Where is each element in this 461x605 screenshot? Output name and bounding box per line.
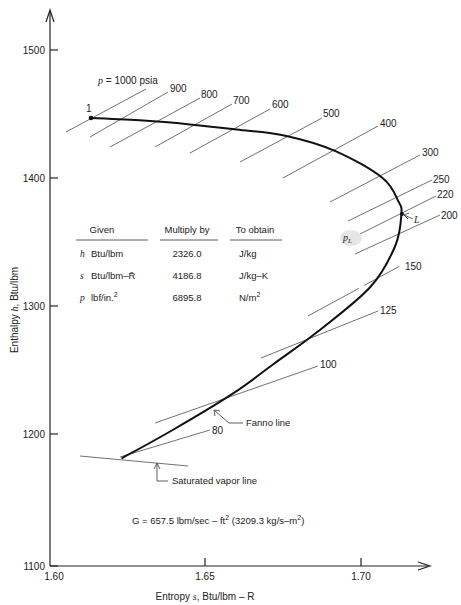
isobar-line	[155, 366, 318, 423]
svg-text:Btu/lbm: Btu/lbm	[91, 248, 123, 259]
isobar-label: 300	[422, 147, 439, 158]
isobar-label: p = 1000 psia	[97, 75, 158, 86]
svg-text:lbf/in.2: lbf/in.2	[91, 291, 118, 303]
svg-text:Btu/lbm–R̄: Btu/lbm–R̄	[91, 270, 135, 281]
isobar-label: 500	[323, 108, 340, 119]
svg-text:2326.0: 2326.0	[172, 248, 201, 259]
isobar-line	[110, 98, 200, 147]
axes	[46, 10, 430, 570]
table-header-given: Given	[90, 224, 115, 235]
svg-text:J/kg–K: J/kg–K	[239, 270, 269, 281]
y-axis-label: Enthalpy h, Btu/lbm	[9, 267, 20, 353]
svg-text:J/kg: J/kg	[239, 248, 256, 259]
state-point-1-label: 1	[86, 103, 92, 114]
isobar-label: 800	[201, 89, 218, 100]
x-tick-label: 1.65	[195, 571, 215, 582]
isobar-label: 200	[441, 210, 458, 221]
isobar-label: 900	[170, 83, 187, 94]
isobar-label: 80	[212, 425, 224, 436]
isobar-label: 220	[437, 189, 454, 200]
isobar-label: 100	[320, 359, 337, 370]
svg-text:N/m2: N/m2	[239, 291, 260, 303]
table-header-obtain: To obtain	[236, 224, 275, 235]
x-tick-label: 1.70	[351, 571, 371, 582]
table-row: s Btu/lbm–R̄ 4186.8 J/kg–K	[80, 270, 269, 281]
point-L-label: L	[413, 214, 420, 225]
saturated-vapor-label: Saturated vapor line	[172, 475, 257, 486]
y-tick-label: 1100	[23, 561, 45, 572]
x-axis-ticks: 1.601.651.70	[44, 558, 371, 582]
isobar-line	[90, 92, 168, 137]
x-tick-label: 1.60	[44, 571, 64, 582]
saturated-vapor-line	[80, 456, 188, 466]
isobar-label: 250	[433, 174, 450, 185]
isobar-line	[261, 311, 378, 358]
mass-flux-annotation: G = 657.5 lbm/sec – ft2 (3209.3 kg/s–m2)	[132, 514, 304, 526]
fanno-line-chart: 15001400130012001100 1.601.651.70 Enthal…	[0, 0, 461, 605]
isobar-line	[355, 215, 440, 254]
y-axis-ticks: 15001400130012001100	[23, 45, 58, 572]
y-tick-label: 1400	[23, 173, 46, 184]
svg-text:6895.8: 6895.8	[172, 292, 201, 303]
isobar-label: 600	[272, 99, 289, 110]
svg-text:s: s	[80, 271, 84, 281]
state-point-1	[89, 116, 94, 121]
table-row: p lbf/in.2 6895.8 N/m2	[79, 291, 260, 303]
isobar-line	[240, 118, 322, 162]
fanno-line-curve	[90, 118, 401, 459]
limiting-point-L	[400, 212, 404, 216]
isobar-label: 400	[380, 118, 397, 129]
point-L-arrow-icon	[404, 213, 413, 219]
isobar-label: 125	[380, 305, 397, 316]
isobar-line	[330, 155, 420, 202]
y-tick-label: 1500	[23, 45, 46, 56]
isobar-label: 700	[233, 95, 250, 106]
y-tick-label: 1300	[23, 301, 46, 312]
y-tick-label: 1200	[23, 429, 46, 440]
x-axis-label: Entropy s, Btu/lbm – R	[156, 591, 255, 602]
isobar-label: 150	[405, 261, 422, 272]
fanno-line-leader	[215, 411, 243, 423]
isobar-line	[283, 126, 378, 178]
table-header-multiply: Multiply by	[165, 224, 210, 235]
svg-text:h: h	[80, 249, 85, 259]
table-row: h Btu/lbm 2326.0 J/kg	[80, 248, 256, 259]
fanno-line-label: Fanno line	[246, 417, 290, 428]
svg-text:p: p	[79, 293, 85, 303]
conversion-table: Given Multiply by To obtain h Btu/lbm 23…	[76, 224, 282, 303]
svg-text:4186.8: 4186.8	[172, 270, 201, 281]
isobar-line	[66, 89, 146, 132]
